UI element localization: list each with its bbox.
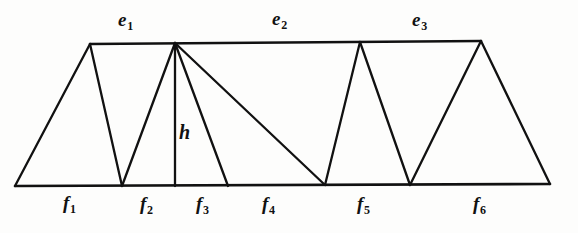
seg-b5-t3 <box>410 41 481 185</box>
seg-t1-b3 <box>175 43 228 186</box>
label-e3: e3 <box>412 10 427 29</box>
seg-t0-b1 <box>90 44 122 186</box>
label-h: h <box>179 122 190 142</box>
baseline-edge <box>15 184 550 186</box>
topline-edge <box>90 41 481 44</box>
seg-t3-b6 <box>481 41 550 184</box>
seg-b0-t0 <box>15 44 90 186</box>
seg-t1-b4 <box>175 43 325 185</box>
diagram-svg <box>0 0 578 233</box>
label-f5: f5 <box>357 194 370 213</box>
figure-root: e1 e2 e3 h f1 f2 f3 f4 f5 f6 <box>0 0 578 233</box>
label-f2: f2 <box>140 194 153 213</box>
label-e1: e1 <box>118 10 133 29</box>
label-f1: f1 <box>63 193 76 212</box>
seg-t2-b5 <box>360 42 410 185</box>
label-f6: f6 <box>473 194 486 213</box>
triangulation-segments <box>15 41 550 186</box>
label-f4: f4 <box>262 194 275 213</box>
label-e2: e2 <box>272 9 287 28</box>
seg-b1-t1 <box>122 43 175 186</box>
label-f3: f3 <box>196 194 209 213</box>
seg-b4-t2 <box>325 42 360 185</box>
